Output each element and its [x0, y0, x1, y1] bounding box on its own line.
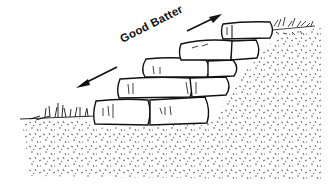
stone-row2-left [180, 40, 234, 60]
good-batter-illustration: Good Batter [0, 0, 331, 192]
stone-row4-left [118, 77, 192, 98]
stone-top [222, 22, 273, 39]
stone-row3-right [208, 60, 237, 77]
stone-bottom-left [94, 99, 150, 125]
stone-bottom-right [150, 97, 209, 125]
grass-left-icon [20, 103, 95, 120]
stone-row2-right [231, 40, 259, 60]
wall-drawing [0, 0, 331, 192]
